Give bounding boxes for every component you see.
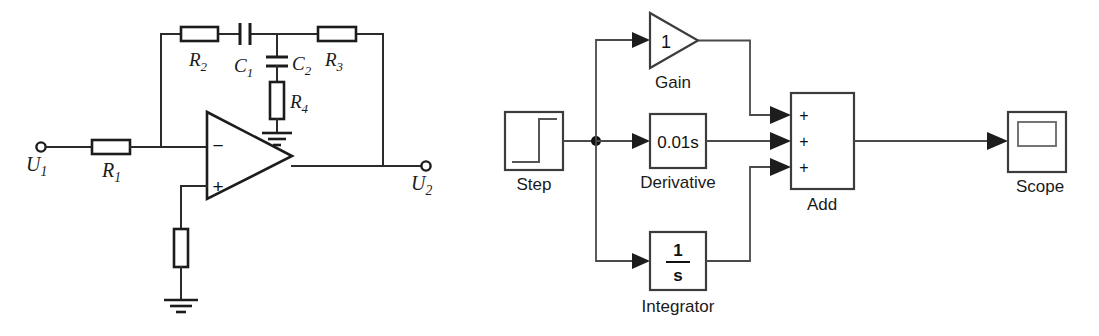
arrow-into-scope bbox=[987, 132, 1008, 150]
integrator-denominator: s bbox=[673, 266, 682, 285]
wire-junction-to-gain bbox=[596, 40, 632, 141]
wire-junction-to-integrator bbox=[596, 141, 632, 261]
label-c1: C1 bbox=[234, 55, 253, 80]
wire-gain-to-add bbox=[698, 41, 770, 116]
resistor-r4 bbox=[270, 82, 284, 119]
gain-value: 1 bbox=[661, 32, 671, 52]
arrow-into-gain bbox=[632, 32, 650, 48]
scope-screen-icon bbox=[1018, 122, 1056, 146]
block-derivative[interactable]: 0.01s Derivative bbox=[640, 114, 716, 192]
block-scope[interactable]: Scope bbox=[1008, 112, 1066, 196]
simulink-block-panel: Step 1 Gain 0.01s bbox=[460, 0, 1099, 336]
block-diagram-svg: Step 1 Gain 0.01s bbox=[460, 0, 1099, 336]
ground-symbol-bias bbox=[164, 300, 198, 312]
arrow-into-add-input3 bbox=[770, 158, 791, 176]
gain-label: Gain bbox=[655, 73, 691, 92]
figure-root: − + U1 U2 R1 R2 C1 C2 R4 R3 bbox=[0, 0, 1099, 336]
output-terminal-u2 bbox=[421, 161, 430, 170]
integrator-numerator: 1 bbox=[673, 241, 682, 260]
arrow-into-derivative bbox=[632, 133, 650, 149]
input-terminal-u1 bbox=[36, 142, 45, 151]
opamp-inverting-sign: − bbox=[212, 135, 223, 156]
label-u2: U2 bbox=[411, 172, 432, 198]
label-r3: R3 bbox=[324, 49, 343, 74]
arrow-into-add-input1 bbox=[770, 106, 791, 124]
derivative-label: Derivative bbox=[640, 173, 716, 192]
derivative-value: 0.01s bbox=[657, 133, 699, 152]
add-sign-3: + bbox=[799, 159, 808, 176]
block-step[interactable]: Step bbox=[505, 112, 563, 194]
op-amp-circuit-panel: − + U1 U2 R1 R2 C1 C2 R4 R3 bbox=[0, 0, 460, 336]
scope-label: Scope bbox=[1016, 177, 1064, 196]
opamp-noninverting-sign: + bbox=[212, 176, 223, 197]
gain-block-body[interactable] bbox=[650, 13, 698, 68]
label-r2: R2 bbox=[188, 49, 208, 74]
label-c2: C2 bbox=[292, 53, 312, 78]
resistor-bias bbox=[174, 229, 188, 267]
add-label: Add bbox=[807, 195, 837, 214]
label-r4: R4 bbox=[289, 91, 309, 116]
block-add[interactable]: + + + Add bbox=[791, 93, 854, 214]
arrow-into-add-input2 bbox=[770, 132, 791, 150]
add-sign-2: + bbox=[799, 133, 808, 150]
integrator-label: Integrator bbox=[642, 297, 715, 316]
label-r1: R1 bbox=[101, 159, 121, 185]
step-label: Step bbox=[517, 175, 552, 194]
resistor-r2 bbox=[181, 27, 218, 41]
block-gain[interactable]: 1 Gain bbox=[650, 13, 698, 92]
resistor-r1 bbox=[92, 140, 130, 154]
arrow-into-integrator bbox=[632, 253, 650, 269]
resistor-r3 bbox=[318, 27, 356, 41]
label-u1: U1 bbox=[26, 153, 47, 179]
block-integrator[interactable]: 1 s Integrator bbox=[642, 232, 715, 316]
add-sign-1: + bbox=[799, 107, 808, 124]
circuit-svg: − + U1 U2 R1 R2 C1 C2 R4 R3 bbox=[0, 0, 460, 336]
